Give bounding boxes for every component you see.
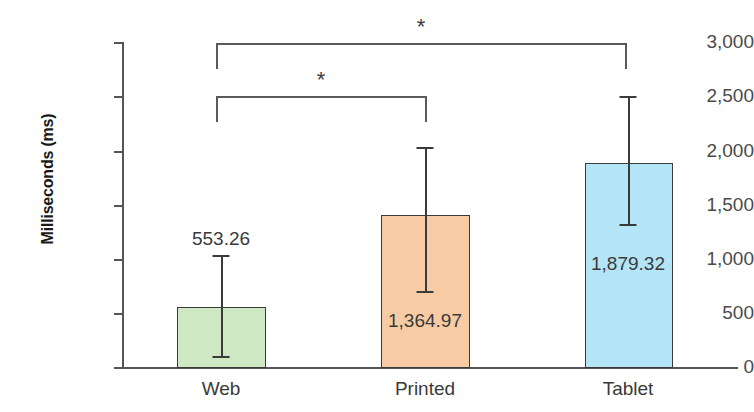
y-tick-mark-500 xyxy=(114,313,122,315)
error-bar-web-cap-lower xyxy=(213,356,230,358)
significance-bracket-web-printed xyxy=(216,96,427,122)
y-axis-line xyxy=(122,42,124,368)
y-tick-mark-0 xyxy=(114,367,122,369)
error-bar-printed-cap-lower xyxy=(417,291,434,293)
y-tick-label-2500: 2,500 xyxy=(646,85,754,107)
y-tick-label-3000: 3,000 xyxy=(646,31,754,53)
error-bar-printed-stem xyxy=(425,147,427,291)
y-tick-mark-1000 xyxy=(114,259,122,261)
error-bar-web-stem xyxy=(221,255,223,356)
x-tick-label-web: Web xyxy=(202,378,241,400)
y-axis-title: Milliseconds (ms) xyxy=(39,79,57,279)
y-tick-mark-3000 xyxy=(114,42,122,44)
bar-value-web: 553.26 xyxy=(192,228,250,250)
error-bar-tablet-stem xyxy=(628,96,630,224)
error-bar-printed-cap-upper xyxy=(417,147,434,149)
y-tick-mark-2000 xyxy=(114,151,122,153)
bar-value-tablet: 1,879.32 xyxy=(591,253,665,275)
y-tick-mark-2500 xyxy=(114,96,122,98)
bar-value-printed: 1,364.97 xyxy=(388,310,462,332)
error-bar-tablet-cap-upper xyxy=(620,96,637,98)
significance-star-web-printed: * xyxy=(317,69,326,91)
x-tick-label-printed: Printed xyxy=(395,378,455,400)
significance-bracket-web-tablet xyxy=(216,43,627,69)
y-tick-mark-1500 xyxy=(114,205,122,207)
y-tick-label-2000: 2,000 xyxy=(646,140,754,162)
error-bar-web-cap-upper xyxy=(213,255,230,257)
x-tick-label-tablet: Tablet xyxy=(603,378,654,400)
significance-star-web-tablet: * xyxy=(417,16,426,38)
error-bar-tablet-cap-lower xyxy=(620,224,637,226)
bar-chart-figure: Milliseconds (ms) 0 500 1,000 1,500 2,00… xyxy=(0,0,754,412)
